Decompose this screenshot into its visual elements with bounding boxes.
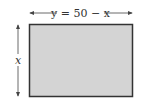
height-label: x [15, 54, 22, 67]
width-label: y = 50 − x [50, 7, 111, 20]
shaded-rectangle [30, 25, 133, 97]
rectangle-diagram: y = 50 − x x [0, 0, 150, 106]
